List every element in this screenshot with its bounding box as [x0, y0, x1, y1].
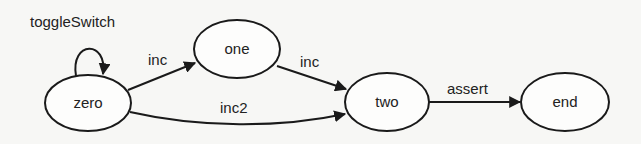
- node-label-zero: zero: [73, 94, 102, 111]
- node-two: two: [345, 73, 429, 131]
- node-end: end: [521, 73, 609, 131]
- edge-label-inc-zero-one: inc: [148, 51, 168, 68]
- edge-zero-two: inc2: [130, 99, 345, 124]
- state-diagram: toggleSwitch inc inc inc2 assert zero on…: [0, 0, 641, 144]
- edge-zero-zero: toggleSwitch: [30, 13, 115, 76]
- edge-two-end: assert: [429, 80, 520, 102]
- node-one: one: [194, 20, 280, 78]
- edge-label-assert: assert: [447, 80, 489, 97]
- node-label-end: end: [552, 93, 577, 110]
- edge-label-toggleSwitch: toggleSwitch: [30, 13, 115, 30]
- edge-zero-one: inc: [128, 51, 195, 90]
- edge-label-inc2: inc2: [220, 99, 248, 116]
- node-label-one: one: [224, 40, 249, 57]
- node-label-two: two: [375, 93, 398, 110]
- node-zero: zero: [45, 75, 131, 131]
- edge-label-inc-one-two: inc: [300, 53, 320, 70]
- edge-one-two: inc: [277, 53, 346, 89]
